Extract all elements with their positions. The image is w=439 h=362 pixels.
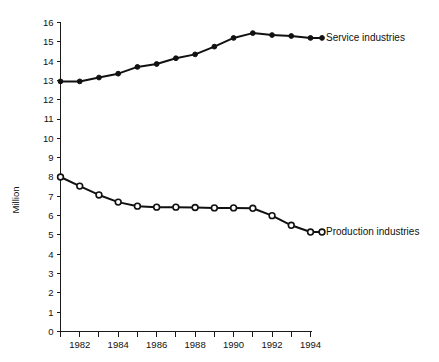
y-tick-label: 3 <box>48 268 53 279</box>
line-chart: 012345678910111213141516 198219841986198… <box>0 0 439 362</box>
x-tick-label: 1990 <box>223 339 244 350</box>
data-point-marker <box>212 44 217 49</box>
y-tick-label: 16 <box>43 17 54 28</box>
chart-canvas: 012345678910111213141516 198219841986198… <box>0 0 439 362</box>
data-point-marker <box>154 62 159 67</box>
data-point-marker <box>231 205 237 211</box>
data-point-marker <box>319 229 325 235</box>
series-1 <box>58 31 324 84</box>
y-tick-label: 10 <box>43 133 54 144</box>
data-point-marker <box>173 56 178 61</box>
y-tick-label: 14 <box>43 56 54 67</box>
y-tick-label: 13 <box>43 75 54 86</box>
x-axis-group: 1982198419861988199019921994 <box>61 332 322 350</box>
x-tick-label: 1982 <box>69 339 90 350</box>
series-line <box>61 33 323 81</box>
data-point-marker <box>115 199 121 205</box>
data-point-marker <box>77 79 82 84</box>
x-axis-ticks: 1982198419861988199019921994 <box>61 332 322 350</box>
series-label-2: Production industries <box>326 226 419 237</box>
y-tick-label: 4 <box>48 249 53 260</box>
y-tick-label: 12 <box>43 94 54 105</box>
y-tick-label: 2 <box>48 287 53 298</box>
data-point-marker <box>288 222 294 228</box>
x-tick-label: 1994 <box>300 339 321 350</box>
y-tick-label: 7 <box>48 191 53 202</box>
series-layer <box>58 31 325 235</box>
data-point-marker <box>154 204 160 210</box>
data-point-marker <box>58 174 64 180</box>
data-point-marker <box>77 183 83 189</box>
x-tick-label: 1984 <box>108 339 129 350</box>
data-point-marker <box>116 71 121 76</box>
y-tick-label: 9 <box>48 152 53 163</box>
data-point-marker <box>193 52 198 57</box>
x-tick-label: 1986 <box>146 339 167 350</box>
data-point-marker <box>289 34 294 39</box>
y-tick-label: 0 <box>48 326 53 337</box>
data-point-marker <box>308 36 313 41</box>
data-point-marker <box>211 205 217 211</box>
y-tick-label: 15 <box>43 36 54 47</box>
data-point-marker <box>135 203 141 209</box>
data-point-marker <box>192 205 198 211</box>
data-point-marker <box>269 213 275 219</box>
series-line <box>61 177 323 232</box>
data-point-marker <box>308 229 314 235</box>
y-tick-label: 6 <box>48 210 53 221</box>
data-point-marker <box>320 36 325 41</box>
series-label-1: Service industries <box>326 32 405 43</box>
series-label-layer: Service industriesProduction industries <box>326 32 419 237</box>
data-point-marker <box>58 79 63 84</box>
data-point-marker <box>96 192 102 198</box>
x-tick-label: 1988 <box>185 339 206 350</box>
data-point-marker <box>270 33 275 38</box>
y-axis-title: Million <box>10 187 21 214</box>
series-2 <box>58 174 325 235</box>
data-point-marker <box>97 75 102 80</box>
x-tick-label: 1992 <box>261 339 282 350</box>
data-point-marker <box>250 205 256 211</box>
y-tick-label: 11 <box>44 113 54 124</box>
y-tick-label: 8 <box>48 171 53 182</box>
y-tick-label: 5 <box>48 229 53 240</box>
data-point-marker <box>231 36 236 41</box>
y-tick-label: 1 <box>48 307 53 318</box>
data-point-marker <box>135 65 140 70</box>
data-point-marker <box>250 31 255 36</box>
data-point-marker <box>173 204 179 210</box>
